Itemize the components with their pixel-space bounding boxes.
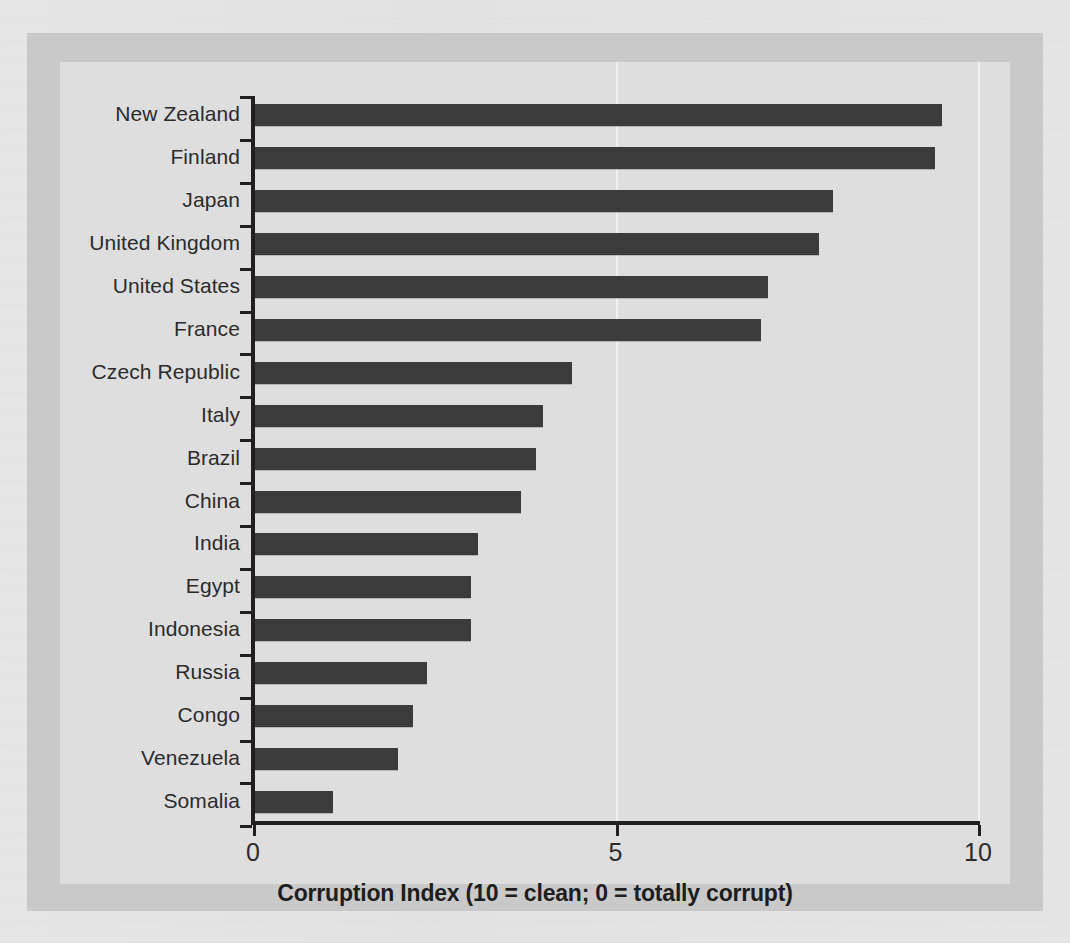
category-label-text: Japan [20,188,240,212]
category-label: Egypt [12,574,240,598]
bar [253,190,833,212]
category-label: United Kingdom [12,231,240,255]
category-label-text: Somalia [20,789,240,813]
category-label-text: Venezuela [20,746,240,770]
bar [253,104,942,126]
x-axis-tick [616,825,619,836]
x-axis-title: Corruption Index (10 = clean; 0 = totall… [0,880,1070,907]
category-label-text: Czech Republic [20,360,240,384]
bar [253,147,935,169]
bar [253,405,543,427]
category-label-text: Indonesia [20,617,240,641]
bar [253,448,536,470]
x-axis-tick-label: 10 [948,838,1008,867]
category-label-text: Egypt [20,574,240,598]
bar [253,491,521,513]
bar [253,276,768,298]
bar [253,662,427,684]
bar [253,576,471,598]
category-label: Somalia [12,789,240,813]
bar [253,791,333,813]
bar [253,705,413,727]
category-label: France [12,317,240,341]
category-label: Czech Republic [12,360,240,384]
x-axis-tick-label: 0 [223,838,283,867]
category-label: Brazil [12,446,240,470]
y-axis-tick [240,825,252,828]
category-label-text: Congo [20,703,240,727]
bar [253,233,819,255]
category-label: Italy [12,403,240,427]
corruption-index-bar-chart: New ZealandFinlandJapanUnited KingdomUni… [0,0,1070,943]
category-label: India [12,531,240,555]
category-label: Congo [12,703,240,727]
category-label: Finland [12,145,240,169]
category-label: Russia [12,660,240,684]
category-label: United States [12,274,240,298]
category-label-text: France [20,317,240,341]
category-label-text: China [20,489,240,513]
category-label-text: Finland [20,145,240,169]
bar [253,533,478,555]
category-label: Indonesia [12,617,240,641]
category-label-text: Italy [20,403,240,427]
category-label: New Zealand [12,102,240,126]
category-label: Venezuela [12,746,240,770]
x-axis-tick-label: 5 [586,838,646,867]
bar [253,619,471,641]
category-label: Japan [12,188,240,212]
x-axis-tick [253,825,256,836]
y-axis-line [251,96,255,825]
category-label-text: United Kingdom [20,231,240,255]
category-label: China [12,489,240,513]
category-label-text: United States [20,274,240,298]
bar [253,362,572,384]
bar [253,748,398,770]
x-axis-tick [978,825,981,836]
bar [253,319,761,341]
category-label-text: India [20,531,240,555]
category-label-text: Russia [20,660,240,684]
category-label-text: Brazil [20,446,240,470]
category-label-text: New Zealand [20,102,240,126]
